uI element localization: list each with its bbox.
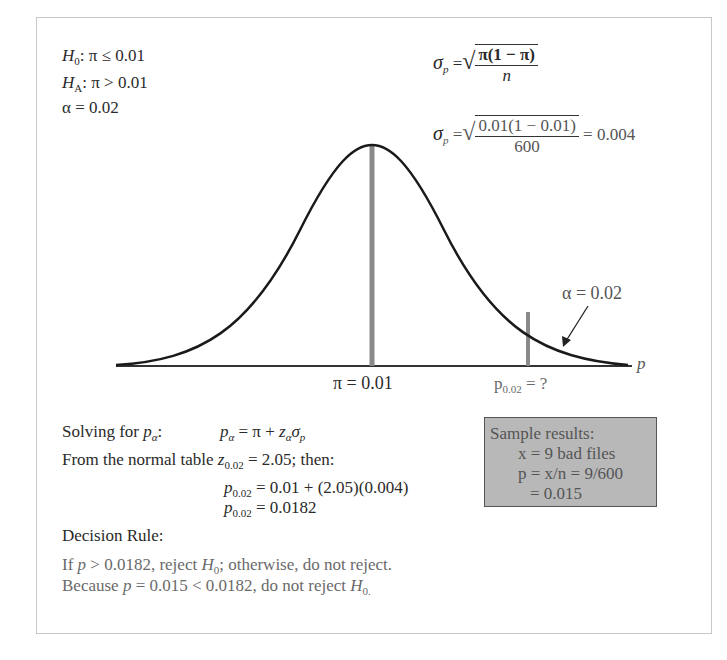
sigma-var: σ xyxy=(291,422,299,441)
sample-results-line3: = 0.015 xyxy=(530,484,582,504)
rule-part3: ; otherwise, do not reject. xyxy=(219,555,392,574)
p-var: p xyxy=(143,422,152,441)
conclusion-part2: = 0.015 < 0.0182, do not reject xyxy=(131,576,350,595)
rule-part1: If xyxy=(62,555,78,574)
p-var: p xyxy=(78,555,87,574)
rule-part2: > 0.0182, reject xyxy=(86,555,201,574)
conclusion-part1: Because xyxy=(62,576,123,595)
alpha-annotation: α = 0.02 xyxy=(562,283,622,303)
solving-line: Solving for pα: xyxy=(62,422,162,442)
p-var: p xyxy=(220,422,229,441)
z-sub: 0.02 xyxy=(224,459,243,471)
sample-results-title: Sample results: xyxy=(490,424,594,444)
step1-rhs: = 0.01 + (2.05)(0.004) xyxy=(252,478,409,497)
p-sub: 0.02 xyxy=(233,507,252,519)
critical-value-formula: pα = π + zασp xyxy=(220,422,305,442)
p-var: p xyxy=(224,478,233,497)
colon: : xyxy=(158,422,163,441)
p-symbol: p xyxy=(494,374,503,393)
normal-table-line: From the normal table z0.02 = 2.05; then… xyxy=(62,450,335,470)
normal-table-suffix: = 2.05; then: xyxy=(244,450,335,469)
p-var: p xyxy=(224,498,233,517)
h-sub: 0. xyxy=(363,585,371,597)
decision-heading: Decision Rule: xyxy=(62,526,164,546)
normal-table-prefix: From the normal table xyxy=(62,450,218,469)
calc-step-2: p0.02 = 0.0182 xyxy=(224,498,317,518)
step2-rhs: = 0.0182 xyxy=(252,498,317,517)
decision-conclusion: Because p = 0.015 < 0.0182, do not rejec… xyxy=(62,576,371,596)
calc-step-1: p0.02 = 0.01 + (2.05)(0.004) xyxy=(224,478,408,498)
sample-results-line2: p = x/n = 9/600 xyxy=(518,464,623,484)
decision-rule: If p > 0.0182, reject H0; otherwise, do … xyxy=(62,555,392,575)
p-sub: p xyxy=(300,431,306,443)
h-symbol: H xyxy=(201,555,213,574)
critical-value-label: p0.02 = ? xyxy=(494,374,547,394)
z-var: z xyxy=(279,422,286,441)
formula-mid: = π + xyxy=(234,422,279,441)
unknown-marker: = ? xyxy=(522,374,548,393)
sample-results-line1: x = 9 bad files xyxy=(518,444,615,464)
p-sub: 0.02 xyxy=(503,383,522,395)
axis-label-p: p xyxy=(637,354,646,374)
h-symbol: H xyxy=(350,576,362,595)
alpha-arrow-shaft xyxy=(566,306,588,341)
mean-label: π = 0.01 xyxy=(333,373,393,393)
solving-label: Solving for xyxy=(62,422,143,441)
alpha-arrow-head-icon xyxy=(562,336,571,347)
